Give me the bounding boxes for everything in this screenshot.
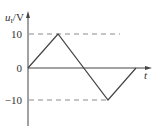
x-axis-label: t (144, 69, 148, 81)
y-axis-arrow-icon (26, 11, 30, 18)
tick-label-0: 0 (17, 62, 23, 74)
y-axis-label-unit: /V (13, 11, 24, 23)
waveform-diagram: 10 0 −10 uI/V t (0, 0, 161, 138)
triangle-wave (28, 34, 136, 100)
y-axis-label: uI/V (5, 11, 24, 25)
tick-label-neg10: −10 (5, 94, 23, 106)
tick-label-10: 10 (11, 28, 23, 40)
